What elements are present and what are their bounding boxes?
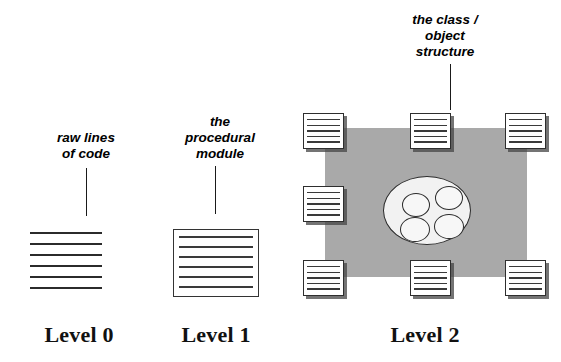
annotation-class-object-structure: the class / object structure	[392, 12, 498, 60]
mini-module-line	[414, 272, 447, 273]
mini-module-line	[509, 272, 542, 273]
module-bottom-right	[505, 260, 546, 296]
module-top-right	[505, 113, 546, 149]
mini-module-line	[307, 283, 340, 284]
mini-module-line	[509, 136, 542, 137]
leader-line-procedural-module	[215, 166, 216, 214]
mini-module-line	[307, 288, 340, 289]
module-bottom-center	[410, 260, 451, 296]
procedural-module-graphic	[173, 229, 259, 297]
mini-module-line	[307, 192, 340, 193]
level-label-level-0: Level 0	[20, 322, 138, 348]
level-label-level-1: Level 1	[157, 322, 275, 348]
code-line	[30, 276, 102, 278]
mini-module-line	[307, 277, 340, 278]
mini-module-line	[307, 214, 340, 215]
mini-module-line	[307, 209, 340, 210]
mini-module-line	[509, 125, 542, 126]
annotation-procedural-module: the procedural module	[168, 114, 272, 162]
mini-module-line	[509, 266, 542, 267]
leader-line-class-object-structure	[450, 64, 451, 110]
mini-module-line	[509, 130, 542, 131]
mini-module-line	[307, 203, 340, 204]
code-line	[30, 232, 102, 234]
module-code-line	[179, 246, 253, 248]
module-code-line	[179, 286, 253, 288]
mini-module-line	[509, 119, 542, 120]
object-attribute-circle-3	[400, 217, 430, 242]
code-line	[30, 265, 102, 267]
mini-module-line	[414, 130, 447, 131]
module-mid-left	[303, 186, 344, 222]
module-code-line	[179, 256, 253, 258]
mini-module-line	[414, 141, 447, 142]
mini-module-line	[414, 119, 447, 120]
module-top-left	[303, 113, 344, 149]
module-top-center	[410, 113, 451, 149]
object-attribute-circle-4	[434, 214, 464, 239]
mini-module-line	[414, 277, 447, 278]
code-line	[30, 243, 102, 245]
annotation-raw-lines-of-code: raw lines of code	[38, 130, 134, 162]
object-attribute-circle-1	[402, 193, 430, 217]
mini-module-line	[307, 141, 340, 142]
mini-module-line	[414, 283, 447, 284]
mini-module-line	[307, 136, 340, 137]
mini-module-line	[307, 266, 340, 267]
module-bottom-left	[303, 260, 344, 296]
mini-module-line	[509, 141, 542, 142]
object-attribute-circle-2	[435, 186, 463, 210]
mini-module-line	[414, 266, 447, 267]
code-line	[30, 254, 102, 256]
module-code-line	[179, 266, 253, 268]
mini-module-line	[307, 272, 340, 273]
diagram-canvas: raw lines of codethe procedural moduleth…	[0, 0, 561, 362]
mini-module-line	[307, 198, 340, 199]
mini-module-line	[307, 130, 340, 131]
raw-lines-of-code-graphic	[30, 232, 102, 289]
mini-module-line	[414, 125, 447, 126]
module-code-line	[179, 236, 253, 238]
leader-line-raw-lines-of-code	[86, 168, 87, 216]
mini-module-line	[414, 288, 447, 289]
mini-module-line	[509, 288, 542, 289]
mini-module-line	[307, 125, 340, 126]
mini-module-line	[307, 119, 340, 120]
mini-module-line	[509, 277, 542, 278]
mini-module-line	[509, 283, 542, 284]
mini-module-line	[414, 136, 447, 137]
code-line	[30, 287, 102, 289]
level-label-level-2: Level 2	[366, 322, 484, 348]
module-code-line	[179, 276, 253, 278]
